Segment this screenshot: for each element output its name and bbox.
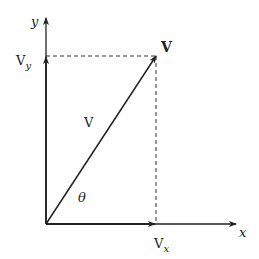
vector-v-arrow	[46, 56, 156, 224]
vx-label: Vx	[153, 236, 169, 254]
angle-theta-label: θ	[78, 190, 86, 205]
y-axis-label: y	[30, 14, 39, 29]
x-axis-label: x	[239, 225, 247, 240]
vy-label: Vy	[15, 53, 31, 71]
vector-v-bold-label: V	[160, 39, 173, 55]
vector-magnitude-label: V	[83, 115, 94, 130]
vector-diagram: y Vy V V θ Vx x	[0, 0, 259, 259]
